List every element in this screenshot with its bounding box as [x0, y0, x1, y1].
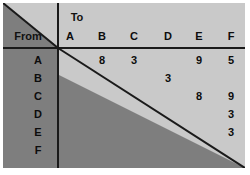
cell-a-c: 3: [131, 54, 137, 66]
column-header-d: D: [164, 30, 172, 42]
cell-a-f: 5: [228, 54, 234, 66]
row-header-a: A: [34, 54, 42, 66]
row-header-e: E: [34, 126, 41, 138]
row-header-c: C: [34, 90, 42, 102]
from-axis-label: From: [14, 30, 42, 42]
cell-b-d: 3: [165, 72, 171, 84]
column-header-e: E: [195, 30, 202, 42]
cell-c-e: 8: [196, 90, 202, 102]
row-header-d: D: [34, 108, 42, 120]
row-label-gutter-shading: [3, 48, 57, 168]
cell-d-f: 3: [228, 108, 234, 120]
row-header-f: F: [35, 144, 42, 156]
to-axis-label: To: [71, 11, 84, 23]
header-vertical-rule: [57, 3, 59, 168]
main-diagonal: [58, 48, 245, 168]
matrix-board: To From A B C D E F A B C D E F 8 3 9 5 …: [3, 3, 245, 168]
header-horizontal-rule: [3, 47, 245, 49]
row-header-b: B: [34, 72, 42, 84]
from-to-matrix-figure: To From A B C D E F A B C D E F 8 3 9 5 …: [0, 0, 250, 175]
cell-e-f: 3: [228, 126, 234, 138]
column-header-b: B: [98, 30, 106, 42]
column-header-c: C: [130, 30, 138, 42]
cell-c-f: 9: [228, 90, 234, 102]
cell-a-b: 8: [99, 54, 105, 66]
cell-a-e: 9: [196, 54, 202, 66]
column-header-a: A: [66, 30, 74, 42]
column-header-f: F: [228, 30, 235, 42]
